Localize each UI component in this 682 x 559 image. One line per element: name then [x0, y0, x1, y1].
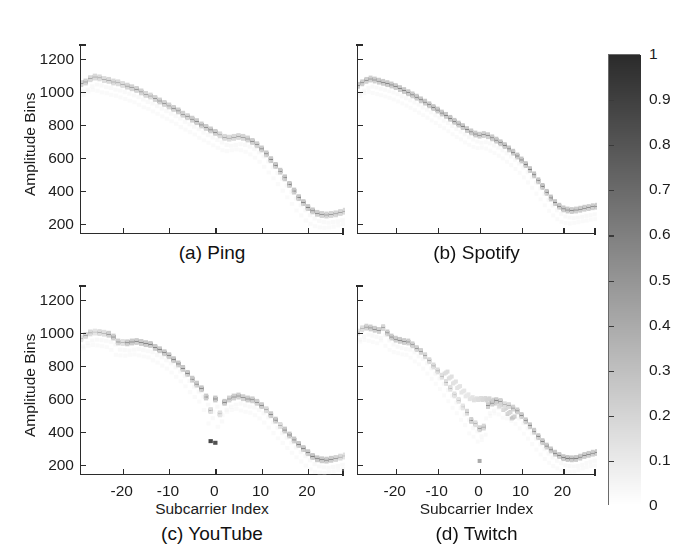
y-tick	[81, 92, 86, 93]
colorbar-tick	[609, 416, 614, 417]
colorbar-tick	[609, 145, 614, 146]
x-tick	[522, 469, 523, 474]
colorbar-tick-label: 0.1	[649, 452, 671, 468]
x-tick-label: -20	[97, 483, 147, 499]
y-tick	[358, 366, 363, 367]
colorbar-tick-label: 0.2	[649, 407, 671, 423]
colorbar-tick	[609, 281, 614, 282]
colorbar-tick-label: 1	[649, 46, 658, 62]
y-tick	[81, 399, 86, 400]
y-tick	[81, 191, 86, 192]
x-tick-label: -10	[143, 483, 193, 499]
y-tick-label: 600	[12, 150, 74, 166]
y-tick	[81, 465, 86, 466]
y-tick-label: 1200	[12, 51, 74, 67]
colorbar-tick	[609, 326, 614, 327]
colorbar-tick-label: 0.4	[649, 317, 671, 333]
colorbar-tick-label: 0.7	[649, 181, 671, 197]
y-tick	[358, 125, 363, 126]
x-tick	[396, 469, 397, 474]
x-tick-label: 20	[282, 483, 332, 499]
y-axis-title-ping: Amplitude Bins	[22, 93, 38, 196]
x-tick	[262, 469, 263, 474]
y-tick	[358, 92, 363, 93]
scatter-canvas-ping	[81, 44, 345, 234]
x-tick-label: 20	[537, 483, 587, 499]
y-tick	[358, 158, 363, 159]
y-tick	[81, 125, 86, 126]
y-tick	[81, 432, 86, 433]
colorbar-tick-label: 0.3	[649, 362, 671, 378]
panel-caption-spotify: (b) Spotify	[357, 243, 596, 262]
panel-caption-youtube: (c) YouTube	[80, 524, 344, 543]
x-tick	[438, 228, 439, 233]
y-tick	[358, 465, 363, 466]
y-tick-label: 200	[12, 457, 74, 473]
x-tick	[480, 228, 481, 233]
colorbar-tick-label: 0.5	[649, 272, 671, 288]
y-tick	[358, 59, 363, 60]
y-tick-label: 1000	[12, 325, 74, 341]
y-tick	[81, 59, 86, 60]
x-tick	[262, 228, 263, 233]
x-tick	[308, 469, 309, 474]
y-tick-label: 800	[12, 358, 74, 374]
x-tick	[522, 228, 523, 233]
colorbar	[608, 54, 640, 505]
y-tick-label: 1000	[12, 84, 74, 100]
x-tick	[215, 228, 216, 233]
y-tick	[358, 333, 363, 334]
colorbar-tick-label: 0	[649, 497, 658, 513]
colorbar-tick-label: 0.9	[649, 91, 671, 107]
x-tick	[480, 469, 481, 474]
x-tick-label: 10	[236, 483, 286, 499]
plot-area-ping	[80, 44, 344, 234]
y-tick-label: 800	[12, 117, 74, 133]
plot-area-spotify	[357, 44, 596, 234]
colorbar-tick	[609, 461, 614, 462]
x-tick-label: 0	[189, 483, 239, 499]
y-tick	[358, 432, 363, 433]
x-axis-title-youtube: Subcarrier Index	[80, 501, 344, 517]
x-axis-title-twitch: Subcarrier Index	[357, 501, 596, 517]
colorbar-tick-label: 0.6	[649, 226, 671, 242]
x-tick	[563, 228, 564, 233]
colorbar-tick	[609, 371, 614, 372]
y-axis-title-youtube: Amplitude Bins	[22, 334, 38, 437]
y-tick-label: 600	[12, 391, 74, 407]
panel-caption-ping: (a) Ping	[80, 243, 344, 262]
scatter-canvas-spotify	[358, 44, 597, 234]
y-tick	[81, 158, 86, 159]
figure-root: Amplitude Bins (a) Ping (b) Spotify Ampl…	[0, 0, 682, 559]
colorbar-tick	[609, 235, 614, 236]
y-tick-label: 400	[12, 424, 74, 440]
y-tick	[81, 300, 86, 301]
x-tick	[396, 228, 397, 233]
colorbar-tick-label: 0.8	[649, 136, 671, 152]
x-tick	[169, 228, 170, 233]
y-tick	[358, 399, 363, 400]
colorbar-tick	[609, 190, 614, 191]
y-tick	[358, 191, 363, 192]
plot-area-twitch	[357, 285, 596, 475]
x-tick	[215, 469, 216, 474]
y-tick-label: 200	[12, 216, 74, 232]
x-tick	[123, 228, 124, 233]
y-tick	[358, 224, 363, 225]
x-tick	[563, 469, 564, 474]
scatter-canvas-youtube	[81, 285, 345, 475]
x-tick	[308, 228, 309, 233]
y-tick	[358, 300, 363, 301]
scatter-canvas-twitch	[358, 285, 597, 475]
x-tick	[169, 469, 170, 474]
y-tick	[81, 333, 86, 334]
colorbar-tick	[609, 100, 614, 101]
panel-caption-twitch: (d) Twitch	[357, 524, 596, 543]
y-tick	[81, 366, 86, 367]
plot-area-youtube	[80, 285, 344, 475]
y-tick-label: 400	[12, 183, 74, 199]
y-tick	[81, 224, 86, 225]
y-tick-label: 1200	[12, 292, 74, 308]
x-tick	[438, 469, 439, 474]
x-tick	[123, 469, 124, 474]
